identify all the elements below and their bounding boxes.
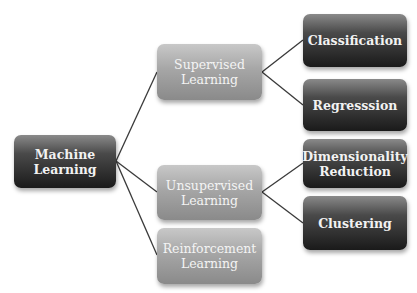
edge-unsupervised-dimred — [262, 163, 303, 192]
node-label: Reinforcement — [159, 241, 261, 256]
node-label: Machine — [29, 147, 100, 162]
edge-ml-supervised — [116, 72, 157, 161]
edge-supervised-classification — [262, 40, 303, 72]
edge-supervised-regression — [262, 72, 303, 105]
node-dimensionality-reduction: Dimensionality Reduction — [303, 139, 407, 188]
node-label: Dimensionality — [298, 149, 412, 164]
edge-unsupervised-clustering — [262, 192, 303, 223]
edge-ml-reinforcement — [116, 161, 157, 255]
node-unsupervised-learning: Unsupervised Learning — [157, 165, 262, 220]
node-label: Clustering — [314, 216, 396, 231]
node-label: Learning — [170, 72, 249, 87]
node-label: Classification — [304, 33, 406, 48]
node-label: Reduction — [298, 164, 412, 179]
node-label: Learning — [29, 162, 100, 177]
node-clustering: Clustering — [303, 196, 407, 250]
node-machine-learning: Machine Learning — [14, 135, 116, 188]
node-reinforcement-learning: Reinforcement Learning — [157, 228, 262, 284]
node-regression: Regresssion — [303, 79, 407, 131]
node-label: Supervised — [170, 57, 249, 72]
node-classification: Classification — [303, 14, 407, 67]
node-label: Unsupervised — [162, 178, 257, 193]
node-label: Learning — [162, 193, 257, 208]
node-supervised-learning: Supervised Learning — [157, 44, 262, 100]
node-label: Learning — [159, 256, 261, 271]
node-label: Regresssion — [309, 98, 402, 113]
